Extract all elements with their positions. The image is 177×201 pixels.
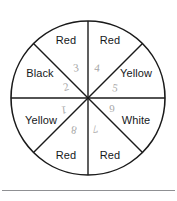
spinner-wheel-figure: Red Yellow White Red Red Yellow Black Re… xyxy=(0,0,177,201)
sector-label-8: Red xyxy=(56,35,76,46)
sector-number-6: 1 xyxy=(61,104,68,116)
sector-number-2: 5 xyxy=(111,82,118,94)
sector-label-2: Yellow xyxy=(120,68,152,79)
sector-label-3: White xyxy=(122,115,151,126)
sector-label-5: Red xyxy=(56,150,76,161)
spinner-wheel-graphic xyxy=(0,0,177,201)
sector-number-8: 3 xyxy=(73,62,80,74)
sector-number-3: 6 xyxy=(109,103,115,114)
sector-number-1: 4 xyxy=(94,62,101,74)
sector-label-1: Red xyxy=(100,35,120,46)
sector-label-7: Black xyxy=(26,68,53,79)
sector-label-6: Yellow xyxy=(25,115,57,126)
sector-label-4: Red xyxy=(100,150,120,161)
bottom-divider-rule xyxy=(2,190,175,191)
